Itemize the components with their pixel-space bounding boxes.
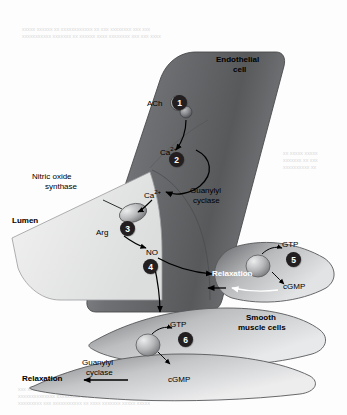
label-guanylyl-cyclase-bottom-line1: Guanylyl [82, 358, 113, 367]
label-cgmp-top: cGMP [283, 282, 305, 291]
label-nitric-oxide-synthase-line2: synthase [45, 182, 77, 191]
nitric-oxide-pathway-diagram [0, 0, 347, 415]
step-marker-5[interactable]: 5 [286, 252, 301, 267]
label-lumen: Lumen [12, 216, 38, 225]
label-calcium-2: Ca2+ [144, 188, 161, 200]
label-relaxation-bottom: Relaxation [22, 374, 62, 383]
label-guanylyl-cyclase-top-line2: cyclase [193, 196, 220, 205]
step-marker-3[interactable]: 3 [120, 221, 135, 236]
label-guanylyl-cyclase-bottom-line2: cyclase [86, 368, 113, 377]
label-endothelial-cell-line2: cell [233, 65, 246, 74]
label-no: NO [146, 248, 158, 257]
label-relaxation-top: Relaxation [212, 269, 252, 278]
label-gtp-top: GTP [282, 240, 298, 249]
label-smooth-muscle-line1: Smooth [246, 313, 276, 322]
label-endothelial-cell-line1: Endothelial [216, 55, 259, 64]
lumen-region [12, 172, 162, 300]
label-guanylyl-cyclase-top-line1: Guanylyl [190, 186, 221, 195]
figure-canvas: xxxxx xxxxxx xx xxxxxxxxxxxx xx xxx xxxx… [0, 0, 347, 415]
step-marker-4[interactable]: 4 [143, 259, 158, 274]
label-smooth-muscle-line2: muscle cells [238, 323, 286, 332]
label-arg: Arg [96, 228, 108, 237]
label-cgmp-bottom: cGMP [168, 375, 190, 384]
label-nitric-oxide-synthase-line1: Nitric oxide [32, 172, 72, 181]
guanylyl-cyclase-icon-bottom [136, 334, 160, 356]
step-marker-2[interactable]: 2 [169, 152, 184, 167]
step-marker-1[interactable]: 1 [172, 95, 187, 110]
label-gtp-bottom: GTP [170, 320, 186, 329]
label-ach: ACh [147, 99, 163, 108]
step-marker-6[interactable]: 6 [178, 332, 193, 347]
